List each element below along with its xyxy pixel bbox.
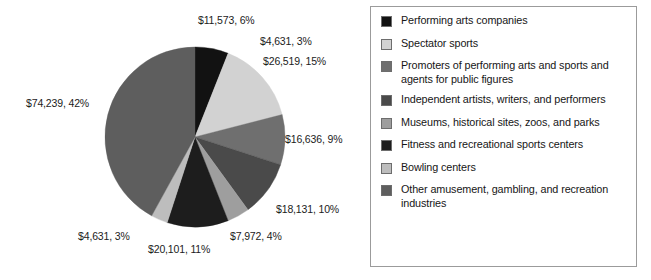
pie-data-label-fitness-centers: $20,101, 11%	[148, 243, 210, 255]
legend-swatch-icon	[381, 16, 392, 27]
legend-item[interactable]: Bowling centers	[381, 161, 628, 175]
legend-swatch-icon	[381, 61, 392, 72]
legend-item[interactable]: Museums, historical sites, zoos, and par…	[381, 116, 628, 130]
pie-chart-figure: $11,573, 6% $4,631, 3% $26,519, 15% $16,…	[0, 0, 651, 280]
legend-item-label: Other amusement, gambling, and recreatio…	[401, 183, 628, 210]
legend-item[interactable]: Fitness and recreational sports centers	[381, 138, 628, 152]
legend-item[interactable]: Performing arts companies	[381, 14, 628, 28]
chart-legend: Performing arts companiesSpectator sport…	[370, 6, 637, 267]
legend-swatch-icon	[381, 140, 392, 151]
legend-item-label: Fitness and recreational sports centers	[401, 138, 583, 152]
pie-data-label-bowling-centers-top: $4,631, 3%	[260, 35, 312, 47]
legend-swatch-icon	[381, 39, 392, 50]
legend-swatch-icon	[381, 185, 392, 196]
pie-data-label-promoters: $16,636, 9%	[285, 133, 342, 145]
legend-item[interactable]: Independent artists, writers, and perfor…	[381, 93, 628, 107]
legend-item-label: Independent artists, writers, and perfor…	[401, 93, 605, 107]
legend-swatch-icon	[381, 95, 392, 106]
pie-data-label-performing-arts-companies: $11,573, 6%	[198, 14, 255, 26]
pie-data-label-bowling-centers: $4,631, 3%	[78, 230, 130, 242]
legend-item-label: Bowling centers	[401, 161, 476, 175]
pie-data-label-independent-artists: $18,131, 10%	[276, 203, 339, 215]
legend-item-label: Promoters of performing arts and sports …	[401, 59, 628, 86]
legend-item[interactable]: Spectator sports	[381, 37, 628, 51]
legend-item-label: Museums, historical sites, zoos, and par…	[401, 116, 600, 130]
pie-plot-area: $11,573, 6% $4,631, 3% $26,519, 15% $16,…	[0, 0, 370, 280]
pie-data-label-other-amusement: $74,239, 42%	[26, 97, 89, 109]
legend-item-label: Performing arts companies	[401, 14, 528, 28]
legend-swatch-icon	[381, 118, 392, 129]
pie-data-label-museums: $7,972, 4%	[230, 230, 282, 242]
legend-item[interactable]: Other amusement, gambling, and recreatio…	[381, 183, 628, 210]
pie-data-label-spectator-sports: $26,519, 15%	[263, 55, 326, 67]
pie-slice-group	[105, 47, 285, 227]
legend-swatch-icon	[381, 163, 392, 174]
legend-item[interactable]: Promoters of performing arts and sports …	[381, 59, 628, 86]
legend-item-label: Spectator sports	[401, 37, 478, 51]
